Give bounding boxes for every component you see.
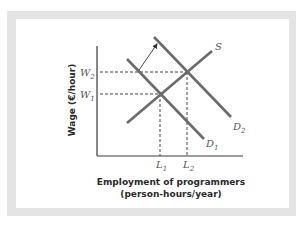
demand-shift-arrow <box>139 44 157 70</box>
demand2-label: D2 <box>232 121 246 135</box>
l2-label: L2 <box>182 159 195 173</box>
supply-demand-diagram: S D2 D1 W2 W1 L1 L2 Employment of progra… <box>0 0 306 226</box>
demand1-label: D1 <box>205 138 219 152</box>
l1-label: L1 <box>155 159 167 173</box>
x-axis-title-line2: (person-hours/year) <box>120 189 221 199</box>
supply-label: S <box>215 41 222 52</box>
y-axis-title: Wage (€/hour) <box>67 64 77 137</box>
x-axis-title-line1: Employment of programmers <box>97 177 245 187</box>
supply-curve <box>127 51 212 123</box>
w2-label: W2 <box>80 67 95 81</box>
demand-curve-1 <box>127 59 204 139</box>
w1-label: W1 <box>80 89 95 103</box>
